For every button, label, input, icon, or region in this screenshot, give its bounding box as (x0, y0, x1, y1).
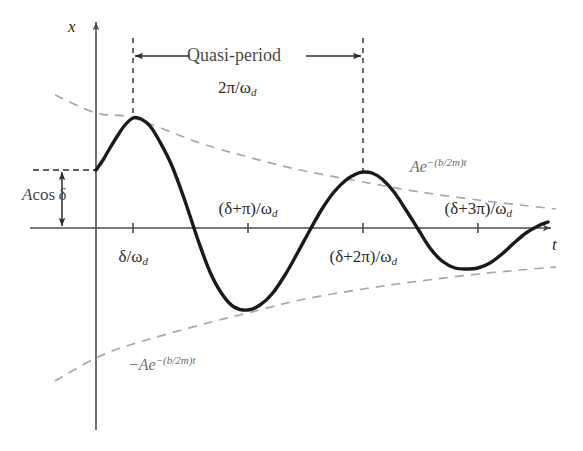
upper-envelope-base: Ae (410, 158, 427, 175)
amplitude-label: Acos δ (22, 186, 66, 203)
tick-label-text: (δ+3π)/ω (445, 199, 507, 218)
tick-label-subscript: d (506, 207, 512, 219)
quasi-period-value-main: 2π/ω (218, 78, 251, 97)
upper-envelope-label: Ae−(b/2m)t (410, 157, 467, 175)
lower-envelope-base: −Ae (128, 356, 156, 373)
damped-oscillation-figure: x t Quasi-period 2π/ωd Acos δ Ae−(b/2m)t… (0, 0, 583, 451)
upper-envelope-exponent: −(b/2m)t (427, 156, 467, 168)
t-axis (30, 223, 551, 233)
t-axis-label: t (552, 236, 557, 253)
lower-envelope-exponent: −(b/2m)t (156, 354, 196, 366)
tick-label-3: (δ+2π)/ωd (330, 248, 397, 267)
amplitude-label-symbol: A (22, 185, 32, 204)
quasi-period-value: 2π/ωd (218, 79, 257, 98)
tick-label-text: (δ+π)/ω (219, 199, 272, 218)
amplitude-label-text: cos δ (32, 185, 66, 204)
upper-envelope-curve (55, 95, 556, 209)
lower-envelope-label: −Ae−(b/2m)t (128, 355, 195, 373)
tick-label-subscript: d (142, 255, 148, 267)
tick-label-4: (δ+3π)/ωd (445, 200, 512, 219)
tick-label-subscript: d (391, 255, 397, 267)
tick-label-2: (δ+π)/ωd (219, 200, 278, 219)
figure-canvas (0, 0, 583, 451)
quasi-period-value-subscript: d (251, 86, 257, 98)
tick-label-text: δ/ω (119, 247, 143, 266)
tick-label-subscript: d (272, 207, 278, 219)
tick-label-text: (δ+2π)/ω (330, 247, 392, 266)
quasi-period-label: Quasi-period (187, 46, 281, 64)
x-axis-label: x (68, 18, 76, 35)
tick-label-1: δ/ωd (119, 248, 148, 267)
